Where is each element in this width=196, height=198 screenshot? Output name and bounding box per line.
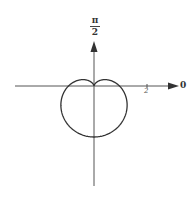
- pi-denominator: 2: [92, 27, 98, 37]
- arrow-right-icon: [168, 83, 179, 90]
- pi-numerator: π: [92, 15, 99, 25]
- arrow-up-icon: [91, 41, 98, 52]
- axis-label-zero: 0: [180, 80, 186, 90]
- axis-label-pi-over-2: π 2: [88, 16, 102, 37]
- tick-label-2: 2: [144, 87, 148, 95]
